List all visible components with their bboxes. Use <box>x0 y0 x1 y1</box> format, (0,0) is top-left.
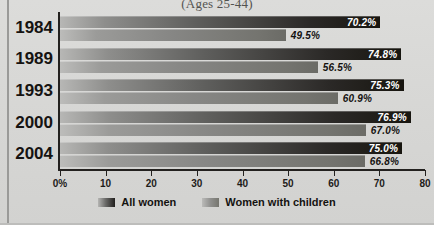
x-axis-tick-label: 80 <box>419 178 430 189</box>
x-axis-tick <box>197 170 198 176</box>
bar-women-with-children[interactable]: 60.9% <box>60 92 338 104</box>
x-axis-tick-label: 70 <box>374 178 385 189</box>
bar-value-label: 67.0% <box>371 124 400 135</box>
y-axis-category-label: 1993 <box>15 82 53 99</box>
x-axis-tick <box>334 170 335 176</box>
bar-women-with-children[interactable]: 67.0% <box>60 124 366 136</box>
y-axis-category-label: 1989 <box>15 50 53 67</box>
bar-all-women[interactable]: 76.9% <box>60 111 411 123</box>
bar-value-label: 75.0% <box>369 143 398 154</box>
x-axis-tick <box>60 170 61 176</box>
legend-item-women-with-children[interactable]: Women with children <box>202 196 335 208</box>
x-axis-tick-label: 40 <box>237 178 248 189</box>
bar-women-with-children[interactable]: 56.5% <box>60 61 318 73</box>
x-axis-tick-label: 20 <box>146 178 157 189</box>
bar-group: 200475.0%66.8% <box>60 138 425 170</box>
plot-area: 0%1020304050607080 198470.2%49.5%198974.… <box>58 12 425 170</box>
bar-group: 198974.8%56.5% <box>60 44 425 76</box>
x-axis-tick <box>425 170 426 176</box>
bar-value-label: 70.2% <box>347 17 376 28</box>
x-axis-tick <box>243 170 244 176</box>
chart-legend: All women Women with children <box>0 196 434 208</box>
bar-all-women[interactable]: 74.8% <box>60 48 401 60</box>
bar-value-label: 76.9% <box>377 111 406 122</box>
legend-swatch-icon-all-women <box>98 198 115 207</box>
x-axis-tick-label: 30 <box>191 178 202 189</box>
chart-title: (Ages 25-44) <box>0 0 434 12</box>
bar-all-women[interactable]: 75.3% <box>60 79 404 91</box>
bar-women-with-children[interactable]: 49.5% <box>60 29 286 41</box>
legend-item-all-women[interactable]: All women <box>98 196 176 208</box>
x-axis-tick <box>288 170 289 176</box>
frame-bottom-border <box>0 223 434 225</box>
bar-all-women[interactable]: 75.0% <box>60 142 402 154</box>
x-axis-tick <box>151 170 152 176</box>
bar-group: 199375.3%60.9% <box>60 75 425 107</box>
legend-label-all-women: All women <box>121 196 176 208</box>
y-axis-category-label: 2000 <box>15 114 53 131</box>
x-axis-tick-label: 50 <box>283 178 294 189</box>
bar-value-label: 75.3% <box>370 80 399 91</box>
bar-value-label: 56.5% <box>323 61 352 72</box>
bar-all-women[interactable]: 70.2% <box>60 16 380 28</box>
bar-value-label: 66.8% <box>370 156 399 167</box>
x-axis-tick-label: 0% <box>53 178 67 189</box>
x-axis-tick-label: 10 <box>100 178 111 189</box>
frame-left-border <box>7 0 9 225</box>
y-axis-category-label: 2004 <box>15 145 53 162</box>
x-axis-tick-label: 60 <box>328 178 339 189</box>
chart-container: (Ages 25-44) 0%1020304050607080 198470.2… <box>0 0 434 225</box>
x-axis-tick <box>379 170 380 176</box>
bar-value-label: 74.8% <box>368 48 397 59</box>
x-axis-tick <box>106 170 107 176</box>
bar-group: 198470.2%49.5% <box>60 12 425 44</box>
bar-women-with-children[interactable]: 66.8% <box>60 155 365 167</box>
legend-label-women-with-children: Women with children <box>225 196 335 208</box>
y-axis-category-label: 1984 <box>15 19 53 36</box>
bar-value-label: 49.5% <box>291 30 320 41</box>
bar-value-label: 60.9% <box>343 93 372 104</box>
bar-group: 200076.9%67.0% <box>60 107 425 139</box>
legend-swatch-icon-women-with-children <box>202 198 219 207</box>
